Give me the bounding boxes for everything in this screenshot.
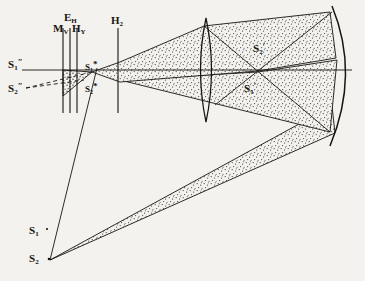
diagram-canvas: [0, 0, 365, 281]
label-s2-double-prime: S2″: [8, 79, 23, 96]
source-point-s2: [48, 258, 51, 261]
ray-s2-through-slits: [50, 68, 97, 260]
label-s2: S2: [29, 249, 39, 266]
label-h-2: H2: [111, 11, 123, 28]
beam-s2-to-mirror: [50, 106, 335, 260]
label-s2-prime: S2′: [253, 39, 265, 56]
label-s2-star: S2*: [85, 79, 98, 95]
label-h-v: HY: [72, 19, 86, 36]
label-s1: S1: [29, 221, 39, 238]
label-s1-prime: S1′: [244, 79, 256, 96]
label-s1-star: S1*: [85, 57, 98, 73]
label-m-v: MV: [53, 19, 68, 36]
label-s1-double-prime: S1″: [8, 55, 23, 72]
optical-diagram-figure: EH MV HY H2 S1″ S2″ S1* S2* S2′ S1′ S1 S…: [0, 0, 365, 281]
source-point-s1: [46, 228, 48, 230]
